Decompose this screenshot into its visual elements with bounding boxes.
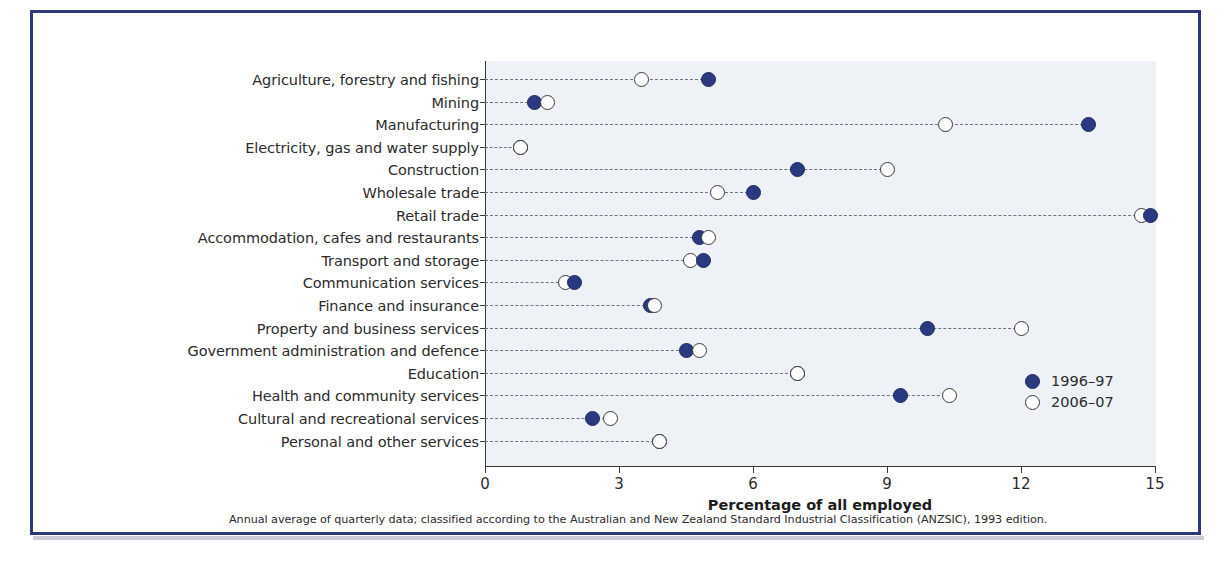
data-row: [485, 340, 1155, 362]
x-axis-ticklabel: 6: [733, 475, 773, 493]
category-label: Agriculture, forestry and fishing: [252, 69, 479, 91]
connector-line: [485, 328, 1021, 329]
category-label: Cultural and recreational services: [238, 408, 479, 430]
data-point-2006-07: [692, 343, 707, 358]
filled-circle-icon: [1025, 374, 1040, 389]
category-label: Health and community services: [252, 385, 479, 407]
connector-line: [485, 305, 655, 306]
category-label: Transport and storage: [321, 250, 479, 272]
connector-line: [485, 373, 798, 374]
data-point-1996-97: [1081, 117, 1096, 132]
data-point-2006-07: [710, 185, 725, 200]
x-axis-tick: [1021, 466, 1022, 473]
x-axis-ticklabel: 3: [599, 475, 639, 493]
x-axis-tick: [619, 466, 620, 473]
data-row: [485, 182, 1155, 204]
connector-line: [485, 395, 950, 396]
data-row: [485, 250, 1155, 272]
data-row: [485, 69, 1155, 91]
bottom-band: [0, 545, 1231, 580]
chart-frame: Agriculture, forestry and fishingMiningM…: [30, 10, 1201, 535]
data-row: [485, 159, 1155, 181]
legend-label-2006-07: 2006–07: [1051, 394, 1114, 410]
legend-label-1996-97: 1996–97: [1051, 373, 1114, 389]
x-axis-tick: [887, 466, 888, 473]
x-axis-tick: [485, 466, 486, 473]
legend-item-1996-97: 1996–97: [1023, 371, 1133, 392]
category-label: Personal and other services: [281, 431, 479, 453]
data-row: [485, 431, 1155, 453]
data-point-2006-07: [647, 298, 662, 313]
connector-line: [485, 169, 887, 170]
data-point-1996-97: [1143, 208, 1158, 223]
data-row: [485, 272, 1155, 294]
connector-line: [485, 215, 1151, 216]
data-point-2006-07: [513, 140, 528, 155]
data-point-1996-97: [790, 162, 805, 177]
data-row: [485, 205, 1155, 227]
connector-line: [485, 350, 699, 351]
data-point-2006-07: [540, 95, 555, 110]
category-label: Mining: [431, 92, 479, 114]
chart-footnote: Annual average of quarterly data; classi…: [229, 513, 1149, 526]
connector-line: [485, 124, 1088, 125]
category-label: Retail trade: [396, 205, 479, 227]
chart-page: Agriculture, forestry and fishingMiningM…: [0, 0, 1231, 580]
connector-line: [485, 260, 704, 261]
open-circle-icon: [1025, 395, 1040, 410]
chart-legend: 1996–97 2006–07: [1023, 371, 1133, 413]
data-row: [485, 92, 1155, 114]
data-point-2006-07: [1014, 321, 1029, 336]
x-axis-ticklabel: 9: [867, 475, 907, 493]
data-point-1996-97: [696, 253, 711, 268]
category-label: Accommodation, cafes and restaurants: [198, 227, 479, 249]
data-point-2006-07: [880, 162, 895, 177]
category-label: Construction: [388, 159, 479, 181]
connector-line: [485, 441, 659, 442]
data-point-1996-97: [920, 321, 935, 336]
connector-line: [485, 79, 708, 80]
category-label: Finance and insurance: [318, 295, 479, 317]
category-label: Electricity, gas and water supply: [245, 137, 479, 159]
data-point-1996-97: [567, 275, 582, 290]
data-row: [485, 227, 1155, 249]
data-row: [485, 114, 1155, 136]
legend-item-2006-07: 2006–07: [1023, 392, 1133, 413]
data-point-1996-97: [893, 388, 908, 403]
category-axis-labels: Agriculture, forestry and fishingMiningM…: [93, 61, 479, 466]
x-axis-ticklabel: 0: [465, 475, 505, 493]
data-point-2006-07: [938, 117, 953, 132]
data-point-1996-97: [585, 411, 600, 426]
data-point-2006-07: [790, 366, 805, 381]
x-axis-ticklabel: 12: [1001, 475, 1041, 493]
category-label: Government administration and defence: [188, 340, 479, 362]
x-axis-tick: [1155, 466, 1156, 473]
category-label: Wholesale trade: [362, 182, 479, 204]
data-point-1996-97: [701, 72, 716, 87]
category-label: Communication services: [303, 272, 479, 294]
x-axis-title: Percentage of all employed: [485, 497, 1155, 513]
connector-line: [485, 237, 708, 238]
data-point-2006-07: [942, 388, 957, 403]
data-point-2006-07: [603, 411, 618, 426]
data-row: [485, 137, 1155, 159]
x-axis-line: [485, 466, 1155, 467]
category-label: Manufacturing: [375, 114, 479, 136]
data-point-2006-07: [701, 230, 716, 245]
x-axis-ticklabel: 15: [1135, 475, 1175, 493]
category-label: Property and business services: [257, 318, 479, 340]
frame-shadow: [33, 536, 1204, 540]
data-point-2006-07: [634, 72, 649, 87]
data-point-2006-07: [652, 434, 667, 449]
data-row: [485, 318, 1155, 340]
x-axis-tick: [753, 466, 754, 473]
data-row: [485, 295, 1155, 317]
data-point-1996-97: [746, 185, 761, 200]
category-label: Education: [408, 363, 479, 385]
